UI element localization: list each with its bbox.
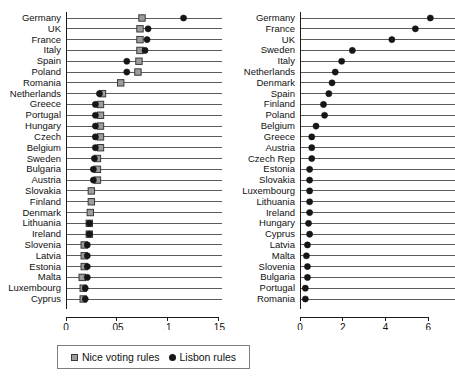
category-label: Sweden <box>27 153 61 164</box>
data-point-circle <box>307 209 313 215</box>
category-label: Greece <box>264 131 295 142</box>
square-marker-icon <box>71 354 78 361</box>
category-label: Italy <box>278 55 296 66</box>
data-point-circle <box>84 253 90 259</box>
data-point-circle <box>326 91 332 97</box>
category-label: France <box>265 23 295 34</box>
category-label: Lithuania <box>256 196 295 207</box>
x-tick-label: .05 <box>110 322 124 330</box>
category-label: Malta <box>272 250 296 261</box>
data-point-circle <box>302 285 308 291</box>
data-point-circle <box>124 58 130 64</box>
data-point-circle <box>86 220 92 226</box>
data-point-circle <box>349 47 355 53</box>
data-point-circle <box>302 296 308 302</box>
data-point-circle <box>180 15 186 21</box>
data-point-circle <box>82 296 88 302</box>
category-label: Latvia <box>36 250 62 261</box>
right-plot-canvas: GermanyFranceUKSwedenItalyNetherlandsDen… <box>228 0 455 330</box>
category-label: Luxembourg <box>242 185 295 196</box>
category-label: Hungary <box>259 217 295 228</box>
category-label: Italy <box>44 44 62 55</box>
data-point-circle <box>313 123 319 129</box>
data-point-circle <box>309 145 315 151</box>
data-point-circle <box>92 123 98 129</box>
data-point-circle <box>309 155 315 161</box>
data-point-circle <box>92 145 98 151</box>
category-label: Slovakia <box>25 185 62 196</box>
category-label: Finland <box>30 196 61 207</box>
data-point-circle <box>329 80 335 86</box>
category-label: Netherlands <box>10 88 61 99</box>
data-point-square <box>88 188 94 194</box>
data-point-circle <box>86 231 92 237</box>
data-point-circle <box>307 166 313 172</box>
category-label: Malta <box>38 271 62 282</box>
category-label: Finland <box>264 98 295 109</box>
category-label: Latvia <box>270 239 296 250</box>
data-point-square <box>88 199 94 205</box>
dot-plot-figure: GermanyUKFranceItalySpainPolandRomaniaNe… <box>0 0 455 384</box>
data-point-circle <box>90 177 96 183</box>
category-label: Denmark <box>256 77 295 88</box>
data-point-square <box>118 80 124 86</box>
data-point-circle <box>307 199 313 205</box>
data-point-circle <box>307 231 313 237</box>
data-point-square <box>137 36 143 42</box>
category-label: Spain <box>37 55 61 66</box>
data-point-circle <box>427 15 433 21</box>
category-label: Germany <box>256 12 295 23</box>
data-point-circle <box>304 263 310 269</box>
category-label: Bulgaria <box>260 271 296 282</box>
category-label: Estonia <box>263 163 295 174</box>
x-tick-label: 0 <box>297 322 303 330</box>
category-label: Austria <box>31 174 61 185</box>
data-point-circle <box>84 274 90 280</box>
data-point-circle <box>412 26 418 32</box>
data-point-circle <box>339 58 345 64</box>
data-point-circle <box>321 112 327 118</box>
category-label: UK <box>282 34 296 45</box>
category-label: Portugal <box>260 282 295 293</box>
data-point-square <box>87 209 93 215</box>
legend-item-lisbon: Lisbon rules <box>169 351 237 363</box>
x-tick-label: .1 <box>163 322 172 330</box>
right-panel-influential-partners: GermanyFranceUKSwedenItalyNetherlandsDen… <box>228 0 455 330</box>
category-label: Denmark <box>22 207 61 218</box>
data-point-circle <box>389 37 395 43</box>
x-tick-label: 6 <box>425 322 431 330</box>
data-point-circle <box>307 188 313 194</box>
data-point-circle <box>124 69 130 75</box>
data-point-circle <box>305 220 311 226</box>
data-point-circle <box>91 155 97 161</box>
data-point-circle <box>144 37 150 43</box>
data-point-square <box>139 15 145 21</box>
data-point-circle <box>332 69 338 75</box>
category-label: Poland <box>31 66 61 77</box>
category-label: Germany <box>22 12 61 23</box>
data-point-circle <box>145 26 151 32</box>
data-point-circle <box>92 134 98 140</box>
legend-label-lisbon: Lisbon rules <box>180 351 237 363</box>
category-label: Hungary <box>25 120 61 131</box>
category-label: France <box>31 34 61 45</box>
data-point-circle <box>304 274 310 280</box>
data-point-circle <box>92 112 98 118</box>
data-point-circle <box>309 134 315 140</box>
data-point-circle <box>96 91 102 97</box>
category-label: Bulgaria <box>26 163 62 174</box>
category-label: Luxembourg <box>8 282 61 293</box>
category-label: Ireland <box>266 207 295 218</box>
category-label: Czech <box>34 131 61 142</box>
category-label: Belgium <box>27 142 61 153</box>
category-label: Austria <box>265 142 295 153</box>
category-label: Estonia <box>29 261 61 272</box>
category-label: Czech Rep <box>248 153 295 164</box>
legend: Nice voting rules Lisbon rules <box>57 345 250 369</box>
data-point-circle <box>90 166 96 172</box>
category-label: Lithuania <box>22 217 61 228</box>
left-plot-canvas: GermanyUKFranceItalySpainPolandRomaniaNe… <box>0 0 228 330</box>
category-label: Portugal <box>26 109 61 120</box>
data-point-square <box>137 26 143 32</box>
category-label: Cyprus <box>265 228 295 239</box>
